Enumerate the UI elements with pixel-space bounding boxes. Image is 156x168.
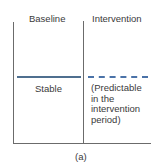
intervention-projected-line [88, 76, 148, 78]
intervention-predictable-label: (Predictable in the intervention period) [91, 83, 149, 125]
phase-label-intervention: Intervention [92, 13, 142, 24]
y-axis [13, 22, 14, 144]
baseline-level-line [17, 76, 81, 78]
baseline-stable-label: Stable [35, 83, 62, 94]
phase-label-baseline: Baseline [29, 13, 65, 24]
figure-caption: (a) [75, 151, 87, 162]
phase-divider [83, 21, 84, 144]
x-axis [13, 143, 151, 144]
